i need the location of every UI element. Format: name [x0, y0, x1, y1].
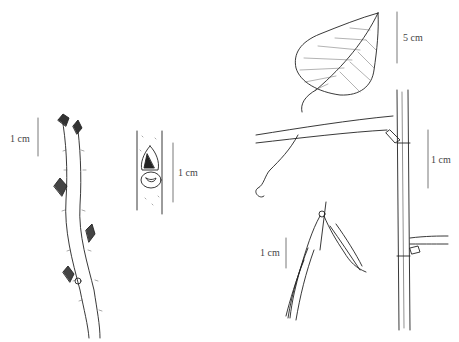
- leaf-scale-label: 5 cm: [403, 32, 423, 43]
- scale-bars: [38, 12, 428, 268]
- stem-node-drawing: [256, 90, 448, 330]
- fruit-scale-label: 1 cm: [260, 247, 280, 258]
- twig-drawing: [54, 114, 102, 338]
- fruit-cluster-drawing: [286, 202, 366, 320]
- twig-scale-label: 1 cm: [10, 133, 30, 144]
- bud-scale-label: 1 cm: [178, 167, 198, 178]
- botanical-plate: 1 cm 1 cm 5 cm 1 cm 1 cm: [0, 0, 459, 342]
- leaf-drawing: [295, 13, 378, 112]
- node-scale-label: 1 cm: [431, 154, 451, 165]
- illustration-drawing: [0, 0, 459, 342]
- bud-detail-drawing: [137, 131, 162, 214]
